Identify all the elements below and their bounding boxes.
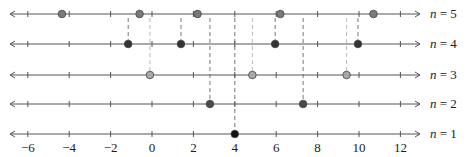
data-point [370, 10, 378, 18]
data-point [58, 10, 66, 18]
x-tick-label: 4 [232, 140, 239, 156]
row-label-n5: n = 5 [430, 6, 457, 22]
x-tick-label: −4 [62, 140, 76, 156]
x-tick-label: 12 [394, 140, 407, 156]
row-label-n4: n = 4 [430, 36, 457, 52]
data-point [343, 71, 351, 79]
data-point [146, 71, 154, 79]
row-label-eq: = 1 [437, 126, 457, 141]
row-label-n3: n = 3 [430, 67, 457, 83]
data-point [136, 10, 144, 18]
data-point [124, 40, 132, 48]
x-tick-label: 6 [273, 140, 280, 156]
x-tick-label: 2 [190, 140, 197, 156]
row-label-n2: n = 2 [430, 96, 457, 112]
data-point [194, 10, 202, 18]
data-point [299, 100, 307, 108]
data-point [271, 40, 279, 48]
data-point [177, 40, 185, 48]
row-label-n1: n = 1 [430, 126, 457, 142]
x-tick-label: −2 [104, 140, 118, 156]
data-point [354, 40, 362, 48]
row-label-eq: = 4 [437, 36, 457, 51]
x-tick-label: 8 [314, 140, 321, 156]
data-point [249, 71, 257, 79]
data-point [231, 130, 239, 138]
row-label-eq: = 3 [437, 67, 457, 82]
x-tick-label: 10 [353, 140, 366, 156]
row-label-eq: = 5 [437, 6, 457, 21]
x-tick-label: −6 [21, 140, 35, 156]
data-point [206, 100, 214, 108]
x-tick-label: 0 [149, 140, 156, 156]
data-point [277, 10, 285, 18]
number-lines-svg [0, 0, 470, 157]
row-label-eq: = 2 [437, 96, 457, 111]
